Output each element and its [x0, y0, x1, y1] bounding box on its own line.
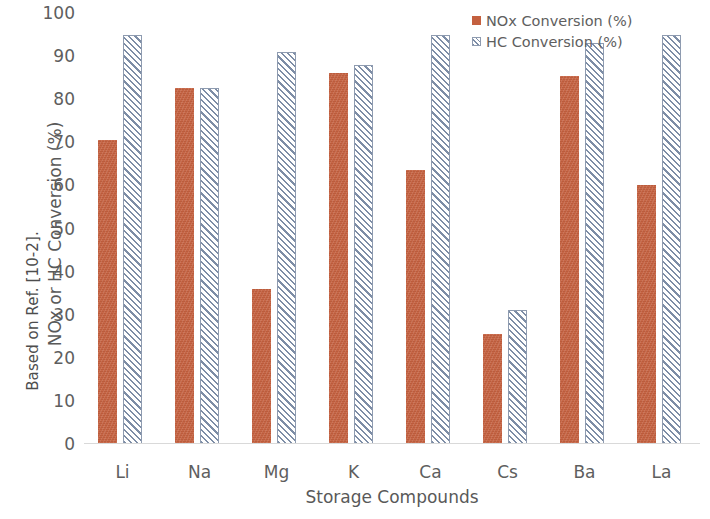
bar-hc[interactable]	[277, 52, 296, 444]
legend-label-nox: NOx Conversion (%)	[486, 13, 632, 29]
bar-group: Li	[84, 13, 161, 444]
y-tick-label: 40	[29, 262, 75, 282]
y-tick-label: 100	[29, 3, 75, 23]
x-tick-label: Li	[84, 462, 161, 482]
bar-nox[interactable]	[329, 73, 348, 444]
legend-swatch-hc-icon	[472, 37, 481, 46]
x-tick-label: La	[623, 462, 700, 482]
bar-group: K	[315, 13, 392, 444]
x-axis-line	[84, 443, 700, 444]
legend-item-nox[interactable]: NOx Conversion (%)	[472, 10, 632, 31]
x-tick-label: Mg	[238, 462, 315, 482]
bar-group: Cs	[469, 13, 546, 444]
bar-group: Na	[161, 13, 238, 444]
y-tick-label: 20	[29, 348, 75, 368]
bar-nox[interactable]	[98, 140, 117, 444]
y-tick-label: 80	[29, 89, 75, 109]
bar-nox[interactable]	[637, 185, 656, 444]
x-tick-label: Cs	[469, 462, 546, 482]
bar-nox[interactable]	[483, 334, 502, 444]
bar-hc[interactable]	[508, 310, 527, 444]
y-tick-label: 60	[29, 175, 75, 195]
legend-item-hc[interactable]: HC Conversion (%)	[472, 31, 632, 52]
bar-hc[interactable]	[354, 65, 373, 444]
bar-hc[interactable]	[585, 43, 604, 444]
legend-swatch-nox-icon	[472, 16, 481, 25]
bar-hc[interactable]	[123, 35, 142, 444]
y-tick-label: 0	[29, 434, 75, 454]
bar-group: Ba	[546, 13, 623, 444]
bar-chart-figure: Based on Ref. [10-2]. NOx or HC Conversi…	[0, 0, 710, 519]
y-tick-label: 90	[29, 46, 75, 66]
bar-nox[interactable]	[175, 88, 194, 444]
y-tick-label: 30	[29, 305, 75, 325]
bar-hc[interactable]	[662, 35, 681, 444]
y-tick-label: 70	[29, 132, 75, 152]
bar-nox[interactable]	[406, 170, 425, 444]
y-tick-label: 10	[29, 391, 75, 411]
bar-nox[interactable]	[252, 289, 271, 444]
y-tick-label: 50	[29, 219, 75, 239]
x-tick-label: Ba	[546, 462, 623, 482]
x-tick-label: Ca	[392, 462, 469, 482]
x-axis-title: Storage Compounds	[84, 487, 700, 507]
legend-label-hc: HC Conversion (%)	[486, 34, 623, 50]
x-tick-label: Na	[161, 462, 238, 482]
chart-legend: NOx Conversion (%) HC Conversion (%)	[472, 10, 632, 52]
plot-area: 0102030405060708090100LiNaMgKCaCsBaLa	[84, 13, 700, 444]
x-tick-label: K	[315, 462, 392, 482]
bar-hc[interactable]	[431, 35, 450, 444]
bar-hc[interactable]	[200, 88, 219, 444]
bar-group: Ca	[392, 13, 469, 444]
bar-nox[interactable]	[560, 76, 579, 445]
bar-group: La	[623, 13, 700, 444]
bar-group: Mg	[238, 13, 315, 444]
